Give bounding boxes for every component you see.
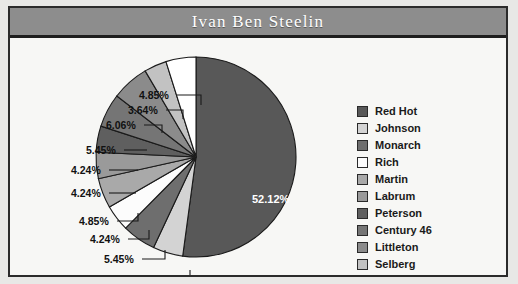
legend-swatch-icon <box>357 106 368 117</box>
slice-percent-label: 5.45% <box>86 144 116 156</box>
slice-percent-label: 4.85% <box>126 274 156 275</box>
legend-item[interactable]: Labrum <box>357 188 506 205</box>
chart-window: Ivan Ben Steelin 4.85%3.64%6.06%5.45%4.2… <box>0 0 518 284</box>
chart-legend: Red HotJohnsonMonarchRichMartinLabrumPet… <box>357 103 506 275</box>
legend-item[interactable]: Red Hot <box>357 103 506 120</box>
legend-item[interactable]: Selberg <box>357 256 506 273</box>
legend-swatch-icon <box>357 140 368 151</box>
page-title: Ivan Ben Steelin <box>192 12 325 32</box>
legend-swatch-icon <box>357 225 368 236</box>
legend-swatch-icon <box>357 242 368 253</box>
legend-item-label: Monarch <box>375 140 421 151</box>
callout-leader-line <box>117 213 138 221</box>
legend-item-label: Martin <box>375 174 408 185</box>
legend-item-label: Peterson <box>375 208 422 219</box>
slice-percent-label-main: 52.12% <box>252 193 289 205</box>
callout-leader-line <box>166 110 183 119</box>
legend-item[interactable]: Rich <box>357 154 506 171</box>
chart-title-bar: Ivan Ben Steelin <box>10 8 506 38</box>
legend-item[interactable]: Littleton <box>357 239 506 256</box>
chart-plot-area: 4.85%3.64%6.06%5.45%4.24%4.24%4.85%4.24%… <box>10 41 506 275</box>
slice-percent-label: 6.06% <box>106 119 136 131</box>
legend-item-label: Red Hot <box>375 106 417 117</box>
callout-leader-line <box>144 125 162 133</box>
legend-item[interactable]: Baker <box>357 273 506 275</box>
slice-percent-label: 5.45% <box>104 253 134 265</box>
legend-item-label: Century 46 <box>375 225 432 236</box>
legend-swatch-icon <box>357 123 368 134</box>
legend-item-label: Selberg <box>375 259 415 270</box>
slice-percent-label: 4.24% <box>90 233 120 245</box>
legend-swatch-icon <box>357 259 368 270</box>
slice-percent-label: 3.64% <box>128 104 158 116</box>
legend-item-label: Labrum <box>375 191 415 202</box>
legend-swatch-icon <box>357 174 368 185</box>
callout-leader-line <box>164 270 190 275</box>
callout-leader-line <box>177 95 201 105</box>
legend-item-label: Johnson <box>375 123 421 134</box>
slice-percent-label: 4.85% <box>79 215 109 227</box>
legend-item[interactable]: Monarch <box>357 137 506 154</box>
legend-swatch-icon <box>357 208 368 219</box>
callout-leader-line <box>142 250 165 259</box>
legend-swatch-icon <box>357 157 368 168</box>
legend-item[interactable]: Peterson <box>357 205 506 222</box>
legend-item[interactable]: Century 46 <box>357 222 506 239</box>
legend-item[interactable]: Johnson <box>357 120 506 137</box>
legend-swatch-icon <box>357 191 368 202</box>
slice-percent-label: 4.85% <box>139 89 169 101</box>
legend-item[interactable]: Martin <box>357 171 506 188</box>
slice-percent-label: 4.24% <box>71 164 101 176</box>
legend-item-label: Littleton <box>375 242 418 253</box>
slice-percent-label: 4.24% <box>71 187 101 199</box>
callout-leader-line <box>128 230 149 239</box>
legend-item-label: Rich <box>375 157 399 168</box>
